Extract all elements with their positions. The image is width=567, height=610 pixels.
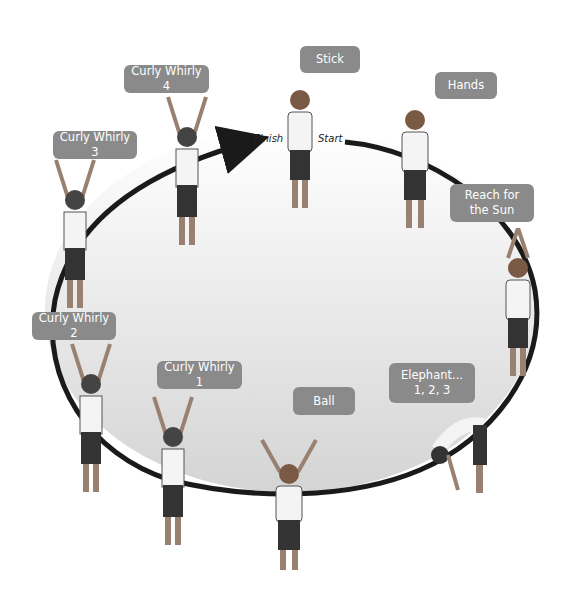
figure-curly-whirly-4 [164,95,210,247]
figure-reach-for-the-sun [500,228,536,378]
start-label: Start [318,133,342,144]
bubble-curly-whirly-4: Curly Whirly 4 [124,65,209,93]
bubble-elephant: Elephant...1, 2, 3 [389,363,475,403]
bubble-ball: Ball [293,387,355,415]
bubble-text: Curly Whirly 3 [59,130,131,160]
figure-curly-whirly-2 [68,342,114,494]
bubble-curly-whirly-1: Curly Whirly 1 [157,361,242,389]
figure-hands [392,108,438,233]
bubble-text: Ball [313,394,334,409]
yoga-sequence-diagram: Finish Start Stick Hands Reach forthe Su… [0,0,567,610]
figure-ball [258,432,320,572]
bubble-reach-for-the-sun: Reach forthe Sun [450,184,534,222]
finish-label: Finish [254,133,283,144]
bubble-curly-whirly-2: Curly Whirly 2 [32,312,116,340]
bubble-hands: Hands [435,72,497,99]
bubble-text: Stick [316,52,344,67]
figure-stick [280,88,320,213]
bubble-stick: Stick [300,46,360,73]
bubble-text: Curly Whirly 4 [130,64,203,94]
bubble-text-line2: 1, 2, 3 [414,383,451,398]
bubble-text-line1: Reach for [465,188,520,203]
bubble-text-line1: Elephant... [401,368,463,383]
figure-elephant [428,415,498,495]
bubble-text-line2: the Sun [470,203,514,218]
figure-curly-whirly-1 [150,395,196,547]
bubble-text: Curly Whirly 2 [38,311,110,341]
figure-curly-whirly-3 [52,158,98,310]
bubble-curly-whirly-3: Curly Whirly 3 [53,131,137,159]
bubble-text: Curly Whirly 1 [163,360,236,390]
bubble-text: Hands [448,78,484,93]
